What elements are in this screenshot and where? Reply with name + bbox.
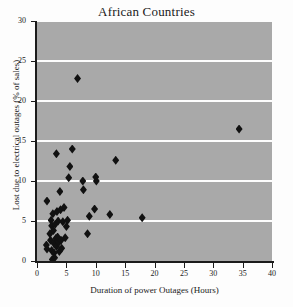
- chart-title: African Countries: [0, 4, 293, 20]
- x-axis-tick: [37, 263, 38, 268]
- x-axis-tick-label: 30: [201, 269, 225, 278]
- x-axis-tick: [213, 263, 214, 268]
- x-axis-label: Duration of power Outages (Hours): [37, 285, 272, 295]
- x-axis-tick-label: 40: [260, 269, 284, 278]
- scatter-point: [84, 229, 91, 238]
- scatter-point: [236, 125, 243, 134]
- y-axis-tick: [31, 221, 36, 222]
- scatter-point: [106, 210, 113, 219]
- gridline-horizontal: [37, 140, 272, 142]
- scatter-point: [91, 205, 98, 214]
- scatter-point: [66, 162, 73, 171]
- scatter-point: [112, 156, 119, 165]
- y-axis-tick: [31, 141, 36, 142]
- scatter-point: [53, 149, 60, 158]
- y-axis-tick: [31, 21, 36, 22]
- gridline-horizontal: [37, 21, 272, 22]
- y-axis-tick: [31, 261, 36, 262]
- gridline-horizontal: [37, 100, 272, 102]
- gridline-horizontal: [37, 60, 272, 62]
- y-axis-line: [35, 21, 37, 263]
- chart-page: African Countries 051015202530 051015202…: [0, 0, 293, 307]
- scatter-point: [43, 197, 50, 206]
- x-axis-tick: [243, 263, 244, 268]
- scatter-point: [56, 187, 63, 196]
- x-axis-tick-label: 0: [25, 269, 49, 278]
- x-axis-tick-label: 35: [231, 269, 255, 278]
- x-axis-tick: [96, 263, 97, 268]
- y-axis-tick-label: 0: [0, 256, 26, 265]
- x-axis-tick: [66, 263, 67, 268]
- scatter-point: [79, 177, 86, 186]
- gridline-horizontal: [37, 220, 272, 222]
- x-axis-tick: [272, 263, 273, 268]
- y-axis-tick: [31, 181, 36, 182]
- x-axis-tick-label: 15: [113, 269, 137, 278]
- x-axis-tick: [184, 263, 185, 268]
- x-axis-tick-label: 20: [143, 269, 167, 278]
- scatter-point: [74, 74, 81, 83]
- y-axis-label: Lost due to electrical outages (% of sal…: [11, 15, 21, 255]
- x-axis-tick-label: 5: [54, 269, 78, 278]
- x-axis-tick-label: 25: [172, 269, 196, 278]
- y-axis-tick: [31, 61, 36, 62]
- scatter-point: [69, 145, 76, 154]
- gridline-horizontal: [37, 180, 272, 182]
- scatter-point: [80, 185, 87, 194]
- x-axis-tick: [155, 263, 156, 268]
- x-axis-tick-label: 10: [84, 269, 108, 278]
- x-axis-tick: [125, 263, 126, 268]
- plot-area: [37, 21, 272, 261]
- y-axis-tick: [31, 101, 36, 102]
